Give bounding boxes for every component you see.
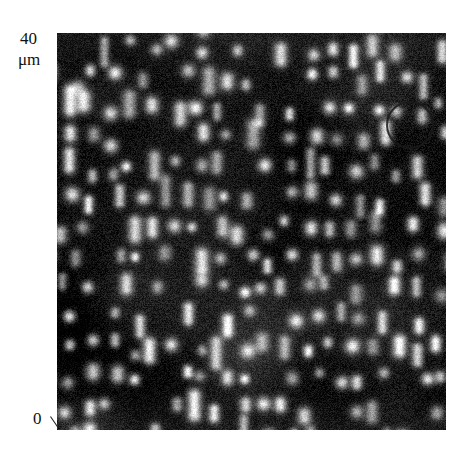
axis-unit-label: μm [18, 50, 40, 69]
figure-root: 40 μm 0 [0, 0, 474, 460]
axis-label-max: 40 [20, 29, 37, 48]
micrograph-panel[interactable] [57, 33, 446, 430]
micrograph-canvas [57, 33, 446, 430]
axis-label-min: 0 [33, 409, 42, 428]
